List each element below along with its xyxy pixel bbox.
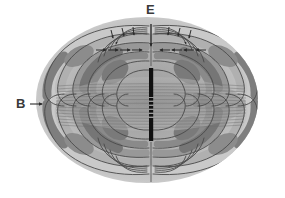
dipole-radiation-diagram: E B — [0, 0, 285, 198]
dipole-antenna — [149, 68, 153, 141]
field-diagram-canvas — [0, 0, 285, 198]
electric-field-label: E — [146, 3, 155, 16]
magnetic-field-label: B — [16, 97, 25, 110]
